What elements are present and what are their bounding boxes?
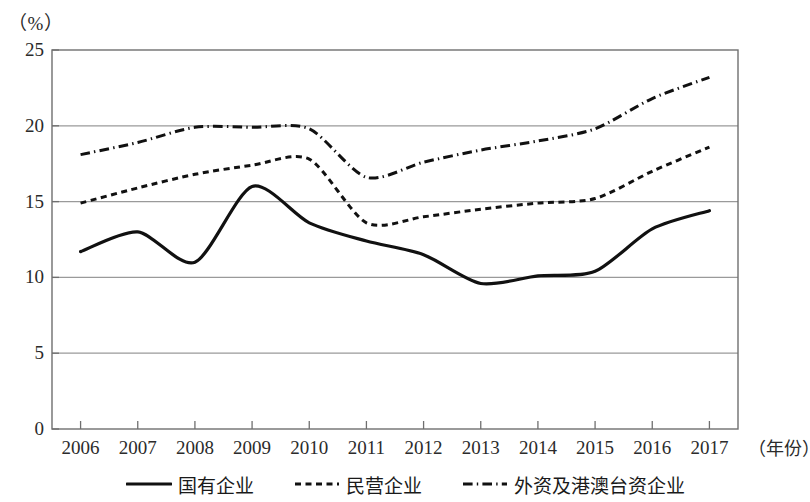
legend-swatch-dash-dot-icon bbox=[462, 477, 508, 491]
legend-label: 国有企业 bbox=[178, 471, 254, 498]
series-line-3 bbox=[81, 77, 710, 178]
line-chart: （%） （年份） 0510152025 20062007200820092010… bbox=[0, 0, 810, 502]
legend-label: 民营企业 bbox=[346, 471, 422, 498]
legend-label: 外资及港澳台资企业 bbox=[514, 471, 685, 498]
series-line-2 bbox=[81, 147, 710, 225]
legend-item-3[interactable]: 外资及港澳台资企业 bbox=[462, 471, 685, 498]
legend-swatch-dotted-icon bbox=[294, 477, 340, 491]
legend-item-1[interactable]: 国有企业 bbox=[126, 471, 254, 498]
plot-area bbox=[0, 0, 810, 502]
legend-item-2[interactable]: 民营企业 bbox=[294, 471, 422, 498]
chart-legend: 国有企业民营企业外资及港澳台资企业 bbox=[0, 466, 810, 502]
series-line-1 bbox=[81, 186, 710, 284]
legend-swatch-solid-icon bbox=[126, 477, 172, 491]
